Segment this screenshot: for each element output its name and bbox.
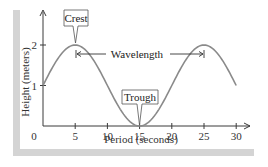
crest-callout: Crest: [64, 10, 88, 43]
x-axis-title: Period (seconds): [104, 133, 178, 146]
wavelength-annotation: Wavelength: [76, 48, 204, 60]
y-axis-title: Height (meters): [19, 47, 32, 117]
frame-bottom-bar: [13, 149, 254, 156]
crest-label: Crest: [64, 12, 87, 24]
x-tick-label: 5: [72, 130, 78, 142]
y-tick-label: 1: [32, 80, 38, 92]
y-tick-label: 2: [32, 39, 38, 51]
x-tick-label: 30: [231, 130, 243, 142]
trough-label: Trough: [124, 91, 156, 103]
x-tick-label: 0: [31, 130, 37, 142]
wave-chart: 051015202530 12 Period (seconds) Height …: [0, 0, 268, 167]
wavelength-label: Wavelength: [111, 48, 164, 60]
x-tick-label: 25: [199, 130, 211, 142]
axes: [40, 10, 250, 129]
